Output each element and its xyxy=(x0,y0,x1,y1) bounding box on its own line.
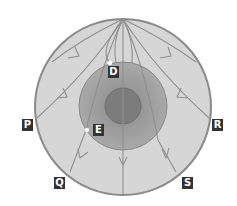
label-q: Q xyxy=(54,177,65,189)
label-r: R xyxy=(212,119,223,131)
label-d: D xyxy=(108,66,119,78)
point-d xyxy=(108,61,112,65)
label-p: P xyxy=(22,119,33,131)
label-e: E xyxy=(93,124,104,136)
earth-diagram xyxy=(0,0,237,206)
point-e xyxy=(85,128,89,132)
label-s: S xyxy=(182,177,193,189)
